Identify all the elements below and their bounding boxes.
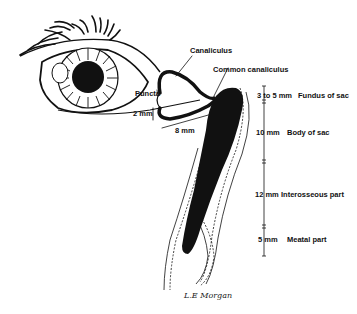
dimension-scale — [262, 86, 266, 256]
segment-name-interosseous: Interosseous part — [281, 191, 344, 199]
lacrimal-diagram: Canaliculus Common canaliculus Puncta 2 … — [0, 0, 357, 314]
label-8mm: 8 mm — [175, 127, 195, 135]
segment-name-fundus: Fundus of sac — [298, 92, 349, 100]
label-puncta: Puncta — [135, 90, 160, 98]
label-canaliculus: Canaliculus — [190, 47, 232, 55]
segment-size-interosseous: 12 mm — [255, 191, 279, 199]
eye-illustration — [20, 16, 200, 114]
artist-signature: L.E Morgan — [184, 291, 232, 300]
segment-size-body: 10 mm — [256, 129, 280, 137]
label-2mm: 2 mm — [133, 110, 153, 118]
label-common-canaliculus: Common canaliculus — [213, 66, 288, 74]
diagram-drawing — [0, 0, 357, 314]
segment-name-body: Body of sac — [287, 129, 330, 137]
segment-size-fundus: 3 to 5 mm — [257, 92, 292, 100]
segment-size-meatal: 5 mm — [258, 236, 278, 244]
segment-name-meatal: Meatal part — [287, 236, 327, 244]
